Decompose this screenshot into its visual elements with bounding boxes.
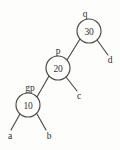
leaf-label-c: c xyxy=(77,91,81,101)
tree-diagram-canvas: 30 20 10 q p gp d c a b xyxy=(0,0,120,150)
binary-tree-figure: 30 20 10 q p gp d c a b xyxy=(0,0,120,150)
node-value-30: 30 xyxy=(84,27,94,37)
leaf-label-a: a xyxy=(8,131,13,141)
pointer-label-gp: gp xyxy=(25,83,35,93)
pointer-label-p: p xyxy=(56,46,61,56)
edge-node-20-to-node-10 xyxy=(37,76,49,97)
edge-node-10-to-leaf-b xyxy=(37,114,46,130)
leaf-label-d: d xyxy=(108,55,113,65)
pointer-label-q: q xyxy=(83,9,88,19)
node-value-20: 20 xyxy=(53,64,63,74)
node-value-10: 10 xyxy=(23,101,33,111)
edge-node-10-to-leaf-a xyxy=(11,114,20,130)
edge-node-30-to-leaf-d xyxy=(97,40,108,55)
edge-node-20-to-leaf-c xyxy=(66,77,77,91)
leaf-label-b: b xyxy=(47,131,52,141)
edge-node-30-to-node-20 xyxy=(67,39,80,60)
